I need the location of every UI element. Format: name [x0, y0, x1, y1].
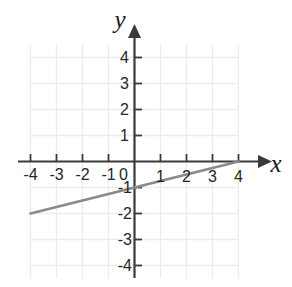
coordinate-plane-figure: -4 -3 -2 -1 1 2 3 4 0 4 3 2 1 -1 -2 -3 -… [0, 0, 292, 287]
x-tick-label: -2 [75, 166, 89, 183]
x-tick-label: -3 [49, 166, 63, 183]
x-tick-labels: -4 -3 -2 -1 1 2 3 4 [23, 166, 243, 185]
x-tick-label: 4 [234, 168, 243, 185]
y-tick-label: 4 [120, 49, 129, 66]
y-tick-label: -1 [118, 179, 132, 196]
graph-canvas: -4 -3 -2 -1 1 2 3 4 0 4 3 2 1 -1 -2 -3 -… [0, 0, 292, 287]
x-tick-label: 1 [156, 168, 165, 185]
x-axis-label: x [269, 150, 281, 177]
x-tick-label: 3 [208, 168, 217, 185]
y-tick-label: 2 [120, 101, 129, 118]
y-axis-arrow-icon [128, 24, 141, 38]
y-tick-label: 1 [120, 127, 129, 144]
x-tick-label: 2 [182, 168, 191, 185]
y-tick-label: -4 [118, 257, 132, 274]
x-tick-label: -1 [101, 166, 115, 183]
y-axis-label: y [111, 6, 126, 33]
y-tick-label: -2 [118, 205, 132, 222]
x-tick-label: -4 [23, 166, 37, 183]
y-tick-label: 3 [120, 75, 129, 92]
y-tick-label: -3 [118, 231, 132, 248]
